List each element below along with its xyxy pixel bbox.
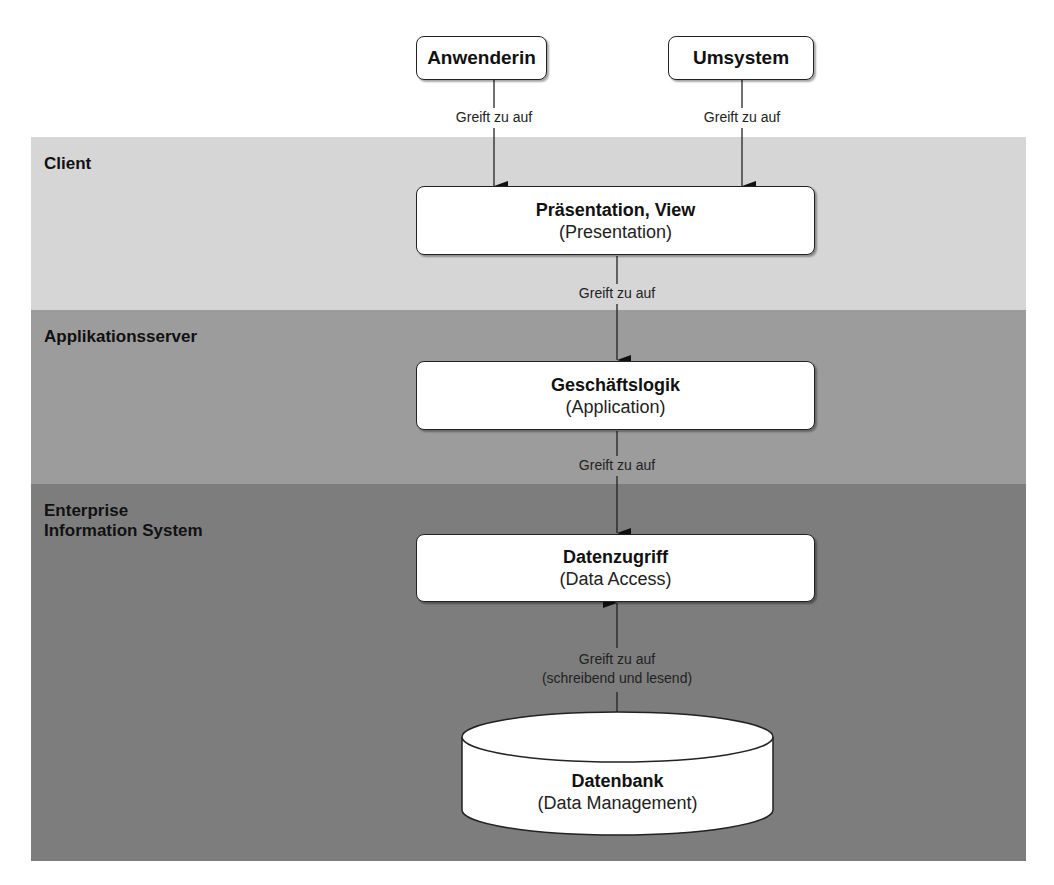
edge-label-dataaccess-database-line1: Greift zu auf <box>542 650 692 669</box>
layer-presentation-title: Präsentation, View <box>536 199 696 221</box>
database-label: Datenbank (Data Management) <box>462 770 773 814</box>
layer-application: Geschäftslogik (Application) <box>416 361 815 430</box>
actor-umsystem-label: Umsystem <box>693 47 789 69</box>
edge-label-dataaccess-database: Greift zu auf (schreibend und lesend) <box>540 650 694 688</box>
layer-application-title: Geschäftslogik <box>551 374 680 396</box>
edge-label-anwenderin: Greift zu auf <box>454 108 534 127</box>
layer-presentation: Präsentation, View (Presentation) <box>416 186 815 255</box>
actor-umsystem: Umsystem <box>668 36 814 80</box>
edge-label-dataaccess-database-line2: (schreibend und lesend) <box>542 669 692 688</box>
database-title: Datenbank <box>462 770 773 792</box>
actor-anwenderin: Anwenderin <box>416 36 547 80</box>
layer-dataaccess-title: Datenzugriff <box>563 546 668 568</box>
connector-layer <box>0 0 1054 885</box>
edge-label-presentation-application: Greift zu auf <box>577 284 657 303</box>
edge-label-application-dataaccess: Greift zu auf <box>577 456 657 475</box>
layer-application-subtitle: (Application) <box>565 396 665 418</box>
edge-label-umsystem: Greift zu auf <box>702 108 782 127</box>
database-subtitle: (Data Management) <box>462 792 773 814</box>
layer-dataaccess: Datenzugriff (Data Access) <box>416 534 815 602</box>
layer-presentation-subtitle: (Presentation) <box>559 221 672 243</box>
actor-anwenderin-label: Anwenderin <box>427 47 536 69</box>
layer-dataaccess-subtitle: (Data Access) <box>559 568 671 590</box>
